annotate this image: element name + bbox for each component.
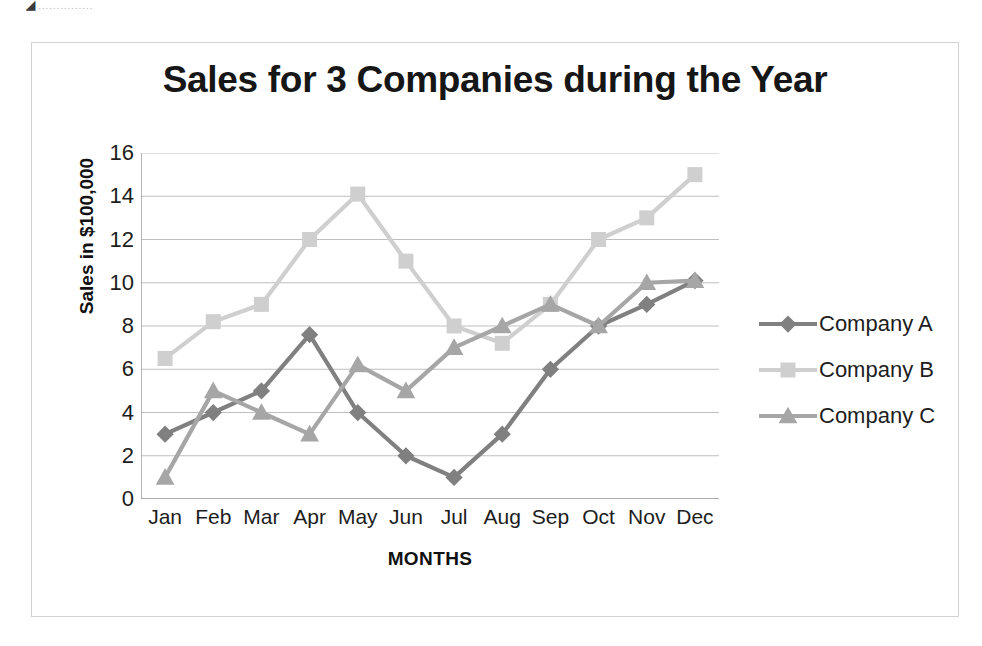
legend-label: Company C	[819, 403, 935, 429]
scan-artifact: ◢ ……………	[26, 0, 146, 12]
legend-item-company-a[interactable]: Company A	[757, 301, 952, 347]
marker-square	[302, 232, 317, 247]
marker-square	[206, 314, 221, 329]
y-axis-tick-labels: 0246810121416	[88, 153, 134, 499]
plot-area	[141, 153, 719, 499]
chart-legend: Company ACompany BCompany C	[757, 301, 952, 439]
series-company-b	[158, 167, 703, 366]
marker-triangle	[204, 382, 223, 399]
marker-square	[398, 254, 413, 269]
scan-artifact-glyph: ◢	[26, 0, 35, 12]
marker-square	[447, 319, 462, 334]
marker-square	[591, 232, 606, 247]
marker-diamond	[205, 404, 222, 421]
data-series-layer	[156, 167, 705, 486]
marker-square	[350, 187, 365, 202]
series-line	[165, 175, 695, 359]
y-tick-label: 0	[94, 486, 134, 512]
y-tick-label: 10	[94, 270, 134, 296]
y-tick-label: 14	[94, 183, 134, 209]
y-tick-label: 2	[94, 443, 134, 469]
legend-item-company-c[interactable]: Company C	[757, 393, 952, 439]
marker-square	[495, 336, 510, 351]
marker-square	[687, 167, 702, 182]
marker-diamond	[156, 426, 173, 443]
marker-square	[158, 351, 173, 366]
legend-key-square-icon	[757, 358, 819, 382]
chart-title: Sales for 3 Companies during the Year	[32, 59, 958, 101]
marker-triangle	[348, 356, 367, 373]
line-chart-svg	[141, 153, 719, 499]
marker-triangle	[156, 468, 175, 485]
y-tick-label: 6	[94, 356, 134, 382]
y-tick-label: 12	[94, 227, 134, 253]
y-tick-label: 4	[94, 400, 134, 426]
chart-container: Sales for 3 Companies during the Year Sa…	[31, 42, 959, 617]
legend-key-triangle-icon	[757, 404, 819, 428]
legend-key-diamond-icon	[757, 312, 819, 336]
gridlines	[141, 153, 719, 499]
marker-square	[639, 210, 654, 225]
marker-diamond	[638, 296, 655, 313]
legend-marker-diamond	[779, 315, 796, 332]
scan-artifact-text: ……………	[38, 0, 93, 11]
y-tick-label: 8	[94, 313, 134, 339]
legend-item-company-b[interactable]: Company B	[757, 347, 952, 393]
legend-label: Company A	[819, 311, 933, 337]
y-tick-label: 16	[94, 140, 134, 166]
x-tick-label-dec: Dec	[664, 505, 726, 529]
marker-square	[254, 297, 269, 312]
x-axis-tick-labels: JanFebMarAprMayJunJulAugSepOctNovDec	[141, 505, 719, 537]
legend-label: Company B	[819, 357, 934, 383]
legend-marker-square	[781, 363, 796, 378]
x-axis-title: MONTHS	[141, 548, 719, 570]
series-company-c	[156, 271, 705, 484]
